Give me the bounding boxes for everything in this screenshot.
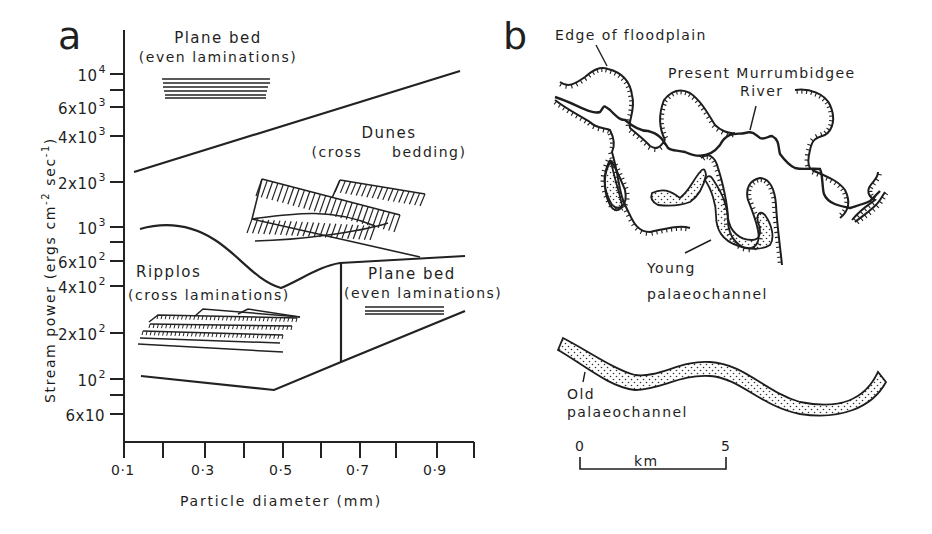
floodplain-leader — [596, 45, 607, 66]
label-edge-of-floodplain: Edge of floodplain — [555, 26, 707, 44]
label-old-line2: palaeochannel — [567, 403, 688, 421]
label-present-river: Present Murrumbidgee River — [668, 64, 855, 100]
river-leader — [750, 106, 756, 130]
label-young-line2: palaeochannel — [647, 285, 768, 303]
label-young-line1: Young — [647, 259, 768, 277]
young-palaeochannel — [651, 169, 706, 205]
label-old-line1: Old — [567, 385, 688, 403]
scale-bar-unit: km — [634, 452, 659, 470]
label-present-river-line1: Present Murrumbidgee — [668, 64, 855, 82]
label-young-palaeochannel: Young palaeochannel — [647, 259, 768, 303]
old-palaeochannel-leader — [583, 372, 585, 382]
label-old-palaeochannel: Old palaeochannel — [567, 385, 688, 421]
scale-bar-end: 5 — [721, 437, 731, 455]
young-palaeochannel-lower — [705, 176, 772, 249]
label-present-river-line2: River — [668, 82, 855, 100]
young-palaeochannel-leader — [685, 240, 711, 253]
scale-bar-start: 0 — [575, 437, 585, 455]
